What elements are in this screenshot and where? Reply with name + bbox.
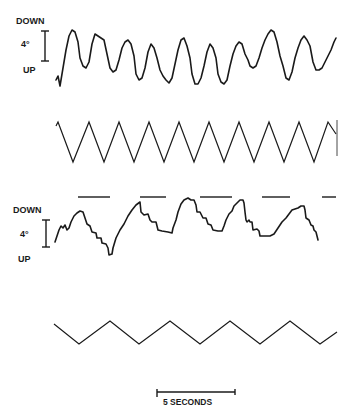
eye-trace-1 (56, 30, 336, 86)
time-scale-label: 5 SECONDS (163, 397, 212, 407)
trace2-scale-bar (42, 220, 50, 247)
trace1-down-label: DOWN (16, 16, 45, 26)
eye-trace-2 (55, 198, 318, 255)
time-scale-bar (157, 389, 235, 397)
trace2-up-label: UP (18, 254, 31, 264)
trace2-down-label: DOWN (13, 205, 42, 215)
trace1-scale-label: 4° (21, 39, 30, 49)
trace1-scale-bar (41, 31, 49, 61)
figure: DOWN 4° UP DOWN 4° UP 5 SECONDS (0, 0, 352, 418)
trace1-up-label: UP (23, 65, 36, 75)
target-wave-fast (56, 122, 336, 162)
trace2-scale-label: 4° (20, 229, 29, 239)
target-wave-slow (54, 321, 337, 344)
